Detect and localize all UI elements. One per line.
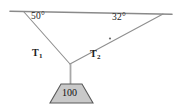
tension-2-symbol: T	[90, 48, 97, 59]
angle-left-label: 50°	[31, 12, 45, 22]
rope-tick-marker	[109, 37, 111, 39]
tension-2-subscript: 2	[97, 53, 101, 61]
tension-1-symbol: T	[32, 47, 39, 58]
diagram-canvas	[0, 0, 175, 107]
tension-2-label: T2	[90, 49, 100, 61]
angle-right-label: 32°	[112, 13, 126, 23]
free-body-diagram: 50° 32° T1 T2 100	[0, 0, 175, 107]
block-mass-label: 100	[62, 88, 77, 98]
tension-1-label: T1	[32, 48, 42, 60]
tension-1-subscript: 1	[39, 52, 43, 60]
